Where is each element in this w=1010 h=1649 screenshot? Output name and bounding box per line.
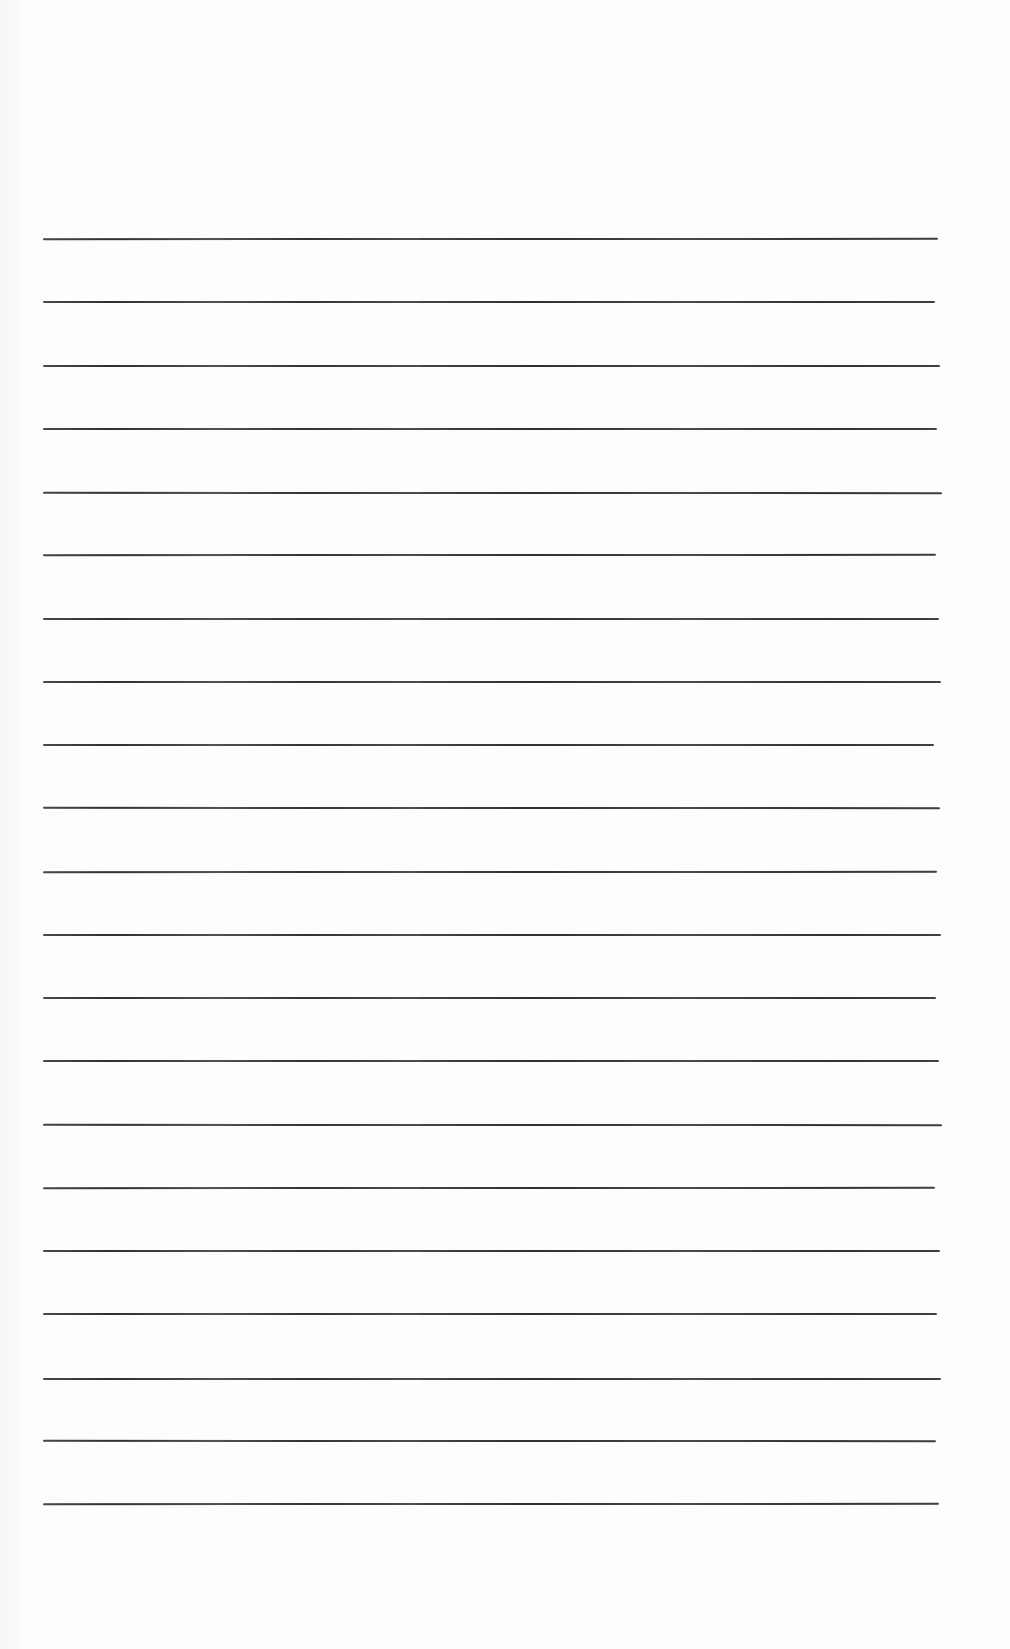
rule-line — [43, 491, 942, 493]
rule-line — [43, 997, 936, 999]
rule-line — [43, 1187, 935, 1189]
rule-line — [43, 807, 940, 809]
ruled-lines-group — [0, 0, 1010, 1649]
rule-line — [43, 1124, 942, 1126]
rule-line — [43, 1250, 940, 1252]
rule-line — [43, 1377, 941, 1379]
rule-line — [43, 365, 940, 367]
rule-line — [43, 238, 938, 240]
rule-line — [43, 743, 934, 745]
rule-line — [43, 934, 941, 936]
rule-line — [43, 1313, 937, 1315]
rule-line — [43, 554, 936, 556]
rule-line — [43, 1060, 939, 1062]
rule-line — [43, 428, 937, 430]
rule-line — [43, 1439, 936, 1441]
rule-line — [43, 681, 941, 683]
rule-line — [43, 618, 939, 620]
scanned-page — [0, 0, 1010, 1649]
rule-line — [43, 1503, 939, 1505]
rule-line — [43, 301, 935, 303]
rule-line — [43, 871, 937, 873]
